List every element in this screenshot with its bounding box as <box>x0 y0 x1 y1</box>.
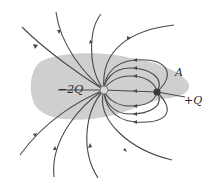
negative-charge-icon <box>100 86 108 94</box>
point-a-label: A <box>175 67 183 78</box>
positive-charge-icon <box>153 88 160 95</box>
positive-charge-label: +Q <box>184 95 202 106</box>
negative-charge-label: −2Q <box>58 84 83 95</box>
field-line-diagram <box>0 0 212 183</box>
